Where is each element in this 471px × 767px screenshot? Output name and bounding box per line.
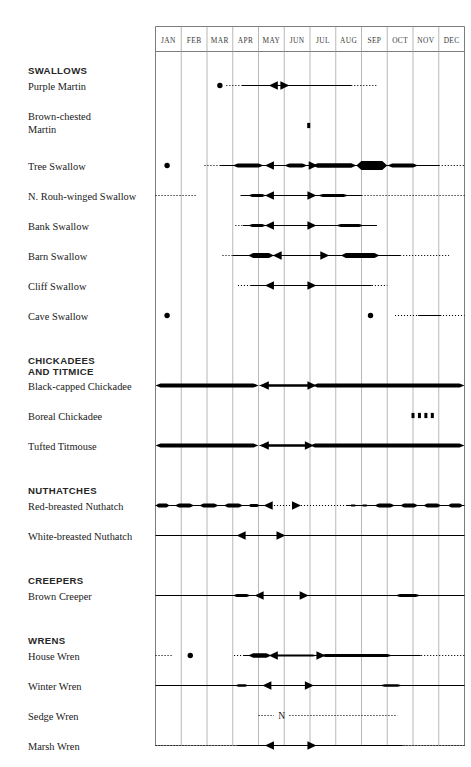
direction-arrow-left (265, 221, 274, 229)
direction-arrow-right (300, 591, 309, 599)
month-header-oct: OCT (392, 36, 408, 45)
nesting-note: N (278, 711, 285, 721)
bar-segment (248, 224, 266, 227)
bar-segment (156, 504, 170, 508)
month-header-nov: NOV (417, 36, 434, 45)
bar-segment (156, 444, 259, 448)
bar-segment (387, 164, 418, 168)
bar-segment (362, 504, 368, 506)
bar-segment (374, 504, 395, 508)
group-heading-4: WRENS (28, 635, 66, 646)
occurrence-square (431, 413, 434, 418)
species-label-2-1: White-breasted Nuthatch (28, 531, 133, 542)
bar-segment (248, 504, 260, 507)
bar-segment (336, 224, 364, 227)
direction-arrow-right (292, 501, 301, 509)
month-header-sep: SEP (367, 36, 381, 45)
bar-segment (448, 504, 463, 508)
direction-arrow-left (264, 501, 273, 509)
direction-arrow-left (260, 381, 269, 389)
direction-arrow-left (262, 681, 271, 689)
species-label-4-0: House Wren (28, 651, 80, 662)
species-label-4-2: Sedge Wren (28, 711, 79, 722)
occurrence-square (412, 413, 415, 418)
species-label-4-3: Marsh Wren (28, 741, 80, 752)
group-heading-2: NUTHATCHES (28, 485, 97, 496)
bar-segment (248, 194, 266, 197)
bar-segment (199, 504, 218, 508)
direction-arrow-right (280, 81, 289, 89)
bar-segment (233, 164, 264, 168)
group-heading-0: SWALLOWS (28, 65, 88, 76)
bar-segment (320, 654, 392, 657)
group-heading-3: CREEPERS (28, 575, 84, 586)
occurrence-dot (164, 313, 169, 318)
direction-arrow-left (265, 281, 274, 289)
direction-arrow-left (265, 161, 274, 169)
direction-arrow-right (309, 161, 318, 169)
migration-chart: JANFEBMARAPRMAYJUNJULAUGSEPOCTNOVDECSWAL… (0, 0, 471, 767)
bar-segment (313, 383, 465, 387)
month-header-apr: APR (238, 36, 254, 45)
bar-segment (235, 684, 248, 687)
bar-segment (271, 655, 317, 657)
species-label-0-5: Barn Swallow (28, 251, 88, 262)
migration-chart-svg: JANFEBMARAPRMAYJUNJULAUGSEPOCTNOVDECSWAL… (0, 0, 471, 767)
direction-arrow-right (307, 281, 316, 289)
bar-segment (224, 504, 243, 508)
species-label-0-3: N. Rouh-winged Swallow (28, 191, 137, 202)
direction-arrow-right (320, 251, 329, 259)
group-heading-1-line2: AND TITMICE (28, 366, 94, 377)
month-header-jun: JUN (290, 36, 305, 45)
species-label-0-7: Cave Swallow (28, 311, 89, 322)
bar-segment (341, 253, 380, 258)
species-label-1-2: Tufted Titmouse (28, 441, 97, 452)
month-header-aug: AUG (340, 36, 357, 45)
direction-arrow-left (273, 251, 282, 259)
bar-segment (284, 164, 307, 168)
bar-segment (248, 253, 274, 258)
bar-segment (380, 684, 403, 687)
direction-arrow-right (307, 221, 316, 229)
occurrence-dot (164, 163, 169, 168)
direction-arrow-right (307, 741, 316, 749)
bar-segment (156, 383, 259, 387)
occurrence-dot (217, 83, 222, 88)
bar-segment (175, 504, 194, 508)
group-heading-1: CHICKADEES (28, 355, 95, 366)
species-label-0-6: Cliff Swallow (28, 281, 87, 292)
direction-arrow-right (305, 441, 314, 449)
bar-segment (395, 594, 421, 597)
species-label-4-1: Winter Wren (28, 681, 82, 692)
direction-arrow-left (269, 81, 278, 89)
species-label-0-0: Purple Martin (28, 81, 87, 92)
direction-arrow-left (255, 591, 264, 599)
occurrence-square (424, 413, 427, 418)
direction-arrow-left (269, 651, 278, 659)
species-label-0-1-line2: Martin (28, 124, 57, 135)
occurrence-dot (188, 653, 193, 658)
bar-segment (318, 194, 349, 197)
direction-arrow-left (265, 191, 274, 199)
occurrence-dot (368, 313, 373, 318)
bar-segment (400, 504, 418, 508)
bar-segment (350, 504, 356, 506)
species-label-1-0: Black-capped Chickadee (28, 381, 132, 392)
species-label-0-2: Tree Swallow (28, 161, 86, 172)
occurrence-square (307, 123, 310, 128)
species-label-3-0: Brown Creeper (28, 591, 92, 602)
month-header-dec: DEC (444, 36, 460, 45)
month-header-jul: JUL (316, 36, 330, 45)
bar-segment (248, 653, 271, 658)
month-header-feb: FEB (187, 36, 202, 45)
bar-segment (310, 444, 465, 448)
species-label-0-1: Brown-chested (28, 111, 92, 122)
direction-arrow-left (260, 441, 269, 449)
month-header-mar: MAR (211, 36, 229, 45)
species-label-1-1: Boreal Chickadee (28, 411, 103, 422)
bar-segment (233, 594, 251, 597)
month-header-jan: JAN (161, 36, 176, 45)
direction-arrow-right (307, 191, 316, 199)
bar-segment (356, 161, 387, 170)
direction-arrow-right (305, 681, 314, 689)
